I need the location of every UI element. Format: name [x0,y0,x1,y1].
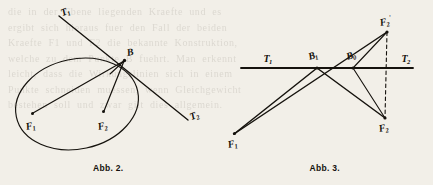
line-B0-F2 [353,68,385,118]
label-F1: F1 [226,138,238,150]
figure-caption-abb-2: Abb. 2. [0,163,217,173]
figure-pair-container: T1 T2 B F1 F2 Abb. 2. [0,0,433,185]
label-T2: T2 [402,54,411,64]
point-F1-marker [31,112,34,115]
point-B-marker [123,59,126,62]
line-B-F2 [104,61,124,111]
label-F1: F1 [25,120,37,132]
label-B: B [126,47,135,58]
line-F1-B0-F2prime [234,32,387,134]
label-F2: F2 [377,122,389,134]
point-F2-marker [102,110,105,113]
dashed-line-F2prime-F2 [385,32,387,118]
ellipse-outline [7,47,147,161]
point-F1-marker [232,132,235,135]
point-B1-marker [315,66,318,69]
point-F2-marker [383,116,386,119]
line-B-F1 [33,61,124,113]
label-T1: T1 [264,54,273,64]
line-F1-B1 [234,68,317,134]
figure-abb-2: T1 T2 B F1 F2 Abb. 2. [0,0,217,185]
abb3-drawing [217,0,433,185]
point-F2prime-marker [385,30,388,33]
figure-caption-abb-3: Abb. 3. [217,163,433,173]
line-B0-F2prime [353,32,387,68]
line-B1-F2 [317,68,385,118]
abb2-drawing [0,0,216,185]
line-T1-T2 [59,16,188,120]
label-F2: F2 [97,120,109,132]
figure-abb-3: T1 T2 B1 B0 F2' F1 F2 Abb. 3. [217,0,433,185]
point-B0-marker [351,67,354,70]
